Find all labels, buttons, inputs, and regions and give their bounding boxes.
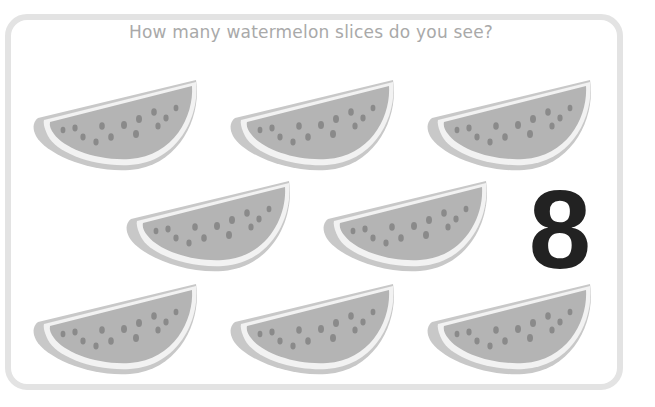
watermelon-slice-icon	[424, 280, 596, 376]
watermelon-slice-icon	[30, 280, 202, 376]
watermelon-slice-icon	[227, 280, 399, 376]
watermelon-slice-icon	[320, 177, 492, 273]
watermelon-slice-icon	[30, 76, 202, 172]
watermelon-slice-icon	[424, 76, 596, 172]
question-text: How many watermelon slices do you see?	[0, 22, 622, 42]
watermelon-slice-icon	[227, 76, 399, 172]
watermelon-slice-icon	[123, 177, 295, 273]
answer-number: 8	[520, 178, 600, 282]
